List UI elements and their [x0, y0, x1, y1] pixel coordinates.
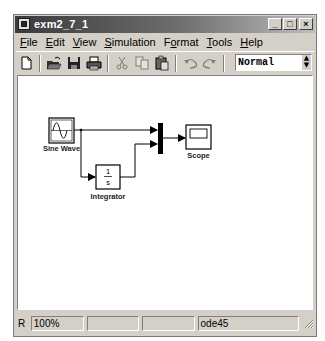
status-bar: R 100% ode45: [16, 313, 314, 333]
integrator-numerator: 1: [106, 167, 110, 176]
simulink-model-window: exm2_7_1 _ □ × File Edit View Simulation…: [13, 14, 317, 337]
simulink-app-icon[interactable]: [18, 18, 30, 30]
cut-icon: [114, 55, 130, 71]
resize-grip-icon: [302, 317, 314, 329]
sine-wave-label: Sine Wave: [43, 144, 80, 153]
redo-button[interactable]: [202, 55, 218, 71]
toolbar-separator: [175, 55, 177, 72]
minimize-button[interactable]: _: [268, 18, 282, 30]
menu-format-mnemonic: o: [170, 36, 176, 48]
menu-help-mnemonic: H: [240, 36, 248, 48]
signal-sine-to-integrator[interactable]: [81, 130, 95, 177]
branch-point: [80, 129, 83, 132]
close-button[interactable]: ×: [299, 18, 313, 30]
simulation-mode-value: Normal: [238, 57, 274, 68]
menu-view[interactable]: View: [69, 36, 101, 48]
mux-block[interactable]: [158, 123, 163, 154]
simulation-mode-select[interactable]: Normal ▲▼: [235, 54, 312, 71]
window-controls: _ □ ×: [267, 18, 313, 30]
menu-file[interactable]: File: [16, 36, 42, 48]
menu-format[interactable]: Format: [160, 36, 203, 48]
copy-button[interactable]: [134, 55, 150, 71]
status-ready-text: R: [16, 318, 31, 329]
zoom-level: 100%: [31, 316, 84, 331]
title-bar[interactable]: exm2_7_1 _ □ ×: [15, 16, 315, 33]
menu-tools-mnemonic: T: [207, 36, 213, 48]
toolbar: Normal ▲▼: [16, 51, 314, 74]
scope-screen-icon: [190, 129, 207, 138]
menu-help[interactable]: Help: [236, 36, 267, 48]
copy-icon: [134, 55, 150, 71]
save-icon: [66, 55, 82, 71]
menu-file-mnemonic: F: [20, 36, 27, 48]
solver-name: ode45: [198, 316, 299, 331]
scope-block[interactable]: Scope: [186, 125, 211, 160]
toolbar-separator: [39, 55, 41, 72]
save-model-button[interactable]: [66, 55, 82, 71]
model-canvas[interactable]: Sine Wave 1 s Integrator Scope: [17, 75, 313, 310]
signal-lines: [74, 130, 185, 177]
toolbar-separator: [223, 55, 225, 72]
simulation-mode-spinner[interactable]: ▲▼: [302, 55, 311, 70]
signal-integrator-to-mux[interactable]: [120, 144, 157, 177]
print-icon: [86, 55, 102, 71]
menu-simulation[interactable]: Simulation: [100, 36, 159, 48]
undo-icon: [182, 55, 198, 71]
integrator-label: Integrator: [90, 192, 125, 201]
maximize-button[interactable]: □: [283, 18, 297, 30]
window-title: exm2_7_1: [34, 18, 88, 30]
toolbar-separator: [107, 55, 109, 72]
open-model-button[interactable]: [46, 55, 62, 71]
scope-label: Scope: [187, 151, 210, 160]
integrator-denominator: s: [106, 178, 110, 187]
cut-button[interactable]: [114, 55, 130, 71]
menu-edit[interactable]: Edit: [42, 36, 69, 48]
new-icon: [18, 55, 34, 71]
paste-button[interactable]: [154, 55, 170, 71]
menu-simulation-mnemonic: S: [104, 36, 111, 48]
menu-tools[interactable]: Tools: [203, 36, 237, 48]
paste-icon: [154, 55, 170, 71]
open-icon: [46, 55, 62, 71]
new-model-button[interactable]: [18, 55, 34, 71]
resize-grip[interactable]: [302, 317, 314, 329]
menu-bar: File Edit View Simulation Format Tools H…: [16, 34, 314, 50]
sine-wave-block[interactable]: Sine Wave: [43, 118, 80, 153]
menu-view-mnemonic: V: [73, 36, 80, 48]
integrator-block[interactable]: 1 s Integrator: [90, 165, 125, 201]
block-diagram: Sine Wave 1 s Integrator Scope: [18, 76, 314, 309]
status-cell-2: [87, 316, 139, 331]
print-model-button[interactable]: [86, 55, 102, 71]
menu-edit-mnemonic: E: [46, 36, 53, 48]
status-cell-3: [142, 316, 194, 331]
undo-button[interactable]: [182, 55, 198, 71]
redo-icon: [202, 55, 218, 71]
